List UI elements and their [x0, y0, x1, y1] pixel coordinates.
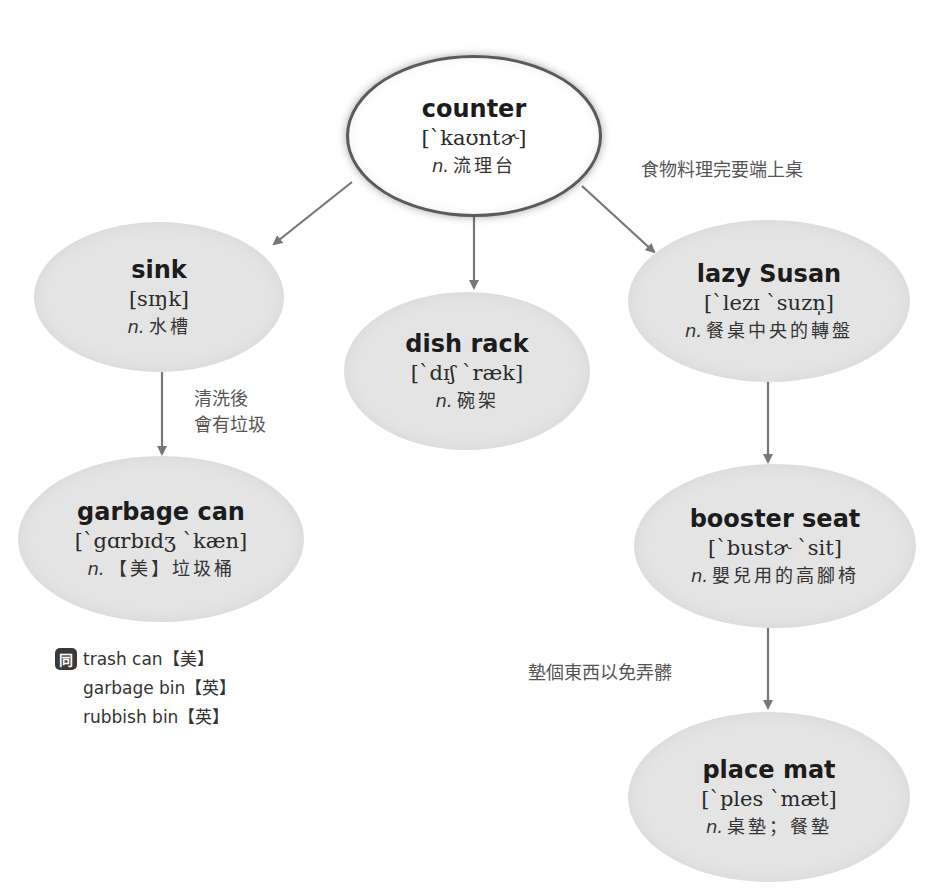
- term: place mat: [702, 755, 835, 785]
- definition-text: 水槽: [149, 316, 191, 337]
- term: lazy Susan: [697, 259, 841, 289]
- pronunciation: [`ples `mæt]: [701, 785, 837, 814]
- synonym-icon: 同: [55, 648, 77, 670]
- definition: n.桌墊；餐墊: [706, 814, 832, 839]
- part-of-speech: n.: [432, 155, 449, 176]
- definition-text: 碗架: [457, 390, 499, 411]
- synonym-list: trash can【美】 garbage bin【英】 rubbish bin【…: [83, 645, 236, 732]
- node-sink: sink [sɪŋk] n.水槽: [34, 222, 284, 372]
- pronunciation: [`dɪʃ `ræk]: [411, 359, 523, 388]
- definition: n.餐桌中央的轉盤: [685, 318, 853, 343]
- part-of-speech: n.: [87, 558, 104, 579]
- pronunciation: [`lezɪ `suzn̩]: [704, 289, 834, 318]
- part-of-speech: n.: [706, 816, 723, 837]
- node-lazy-susan: lazy Susan [`lezɪ `suzn̩] n.餐桌中央的轉盤: [628, 220, 910, 382]
- note-counter-to-lazy-susan: 食物料理完要端上桌: [641, 157, 803, 183]
- part-of-speech: n.: [691, 565, 708, 586]
- definition-text: 餐桌中央的轉盤: [706, 320, 853, 341]
- node-garbage-can: garbage can [`gɑrbɪdʒ `kæn] n.【美】垃圾桶: [18, 456, 304, 622]
- note-booster-to-place-mat: 墊個東西以免弄髒: [528, 660, 672, 686]
- term: sink: [131, 255, 187, 285]
- definition: n.水槽: [127, 314, 190, 339]
- pronunciation: [sɪŋk]: [129, 285, 189, 314]
- part-of-speech: n.: [127, 316, 144, 337]
- part-of-speech: n.: [435, 390, 452, 411]
- arrow-counter-to-sink: [274, 182, 352, 244]
- term: dish rack: [405, 329, 528, 359]
- definition: n.流理台: [432, 153, 516, 178]
- term: booster seat: [690, 504, 861, 534]
- synonym-item: trash can【美】: [83, 645, 236, 674]
- definition: n.碗架: [435, 388, 498, 413]
- pronunciation: [`kaʊntɚ]: [422, 124, 527, 153]
- definition: n.嬰兒用的高腳椅: [691, 563, 859, 588]
- synonym-item: garbage bin【英】: [83, 674, 236, 703]
- definition: n.【美】垃圾桶: [87, 556, 234, 581]
- node-counter: counter [`kaʊntɚ] n.流理台: [346, 55, 602, 217]
- term: counter: [422, 94, 526, 124]
- node-dish-rack: dish rack [`dɪʃ `ræk] n.碗架: [344, 292, 590, 450]
- node-place-mat: place mat [`ples `mæt] n.桌墊；餐墊: [628, 712, 910, 882]
- definition-text: 桌墊；餐墊: [727, 816, 832, 837]
- pronunciation: [`gɑrbɪdʒ `kæn]: [75, 527, 247, 556]
- definition-text: 流理台: [453, 155, 516, 176]
- term: garbage can: [77, 497, 245, 527]
- note-sink-to-garbage-line2: 會有垃圾: [194, 412, 266, 438]
- node-booster-seat: booster seat [`bustɚ `sit] n.嬰兒用的高腳椅: [634, 464, 916, 628]
- note-sink-to-garbage-line1: 清洗後: [194, 386, 248, 412]
- synonym-item: rubbish bin【英】: [83, 703, 236, 732]
- arrow-counter-to-lazy-susan: [582, 186, 654, 252]
- pronunciation: [`bustɚ `sit]: [708, 534, 842, 563]
- part-of-speech: n.: [685, 320, 702, 341]
- definition-text: 嬰兒用的高腳椅: [712, 565, 859, 586]
- definition-text: 【美】垃圾桶: [109, 558, 235, 579]
